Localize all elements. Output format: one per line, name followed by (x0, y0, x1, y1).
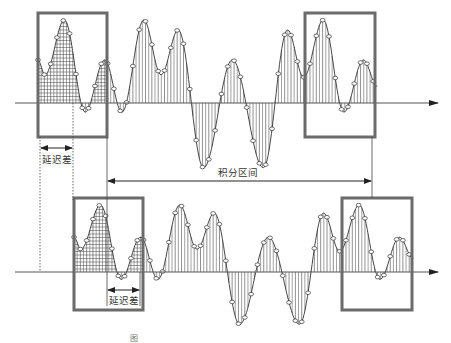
sample-marker (185, 223, 190, 227)
sample-marker (255, 263, 260, 267)
sample-marker (230, 300, 235, 304)
sample-marker (289, 33, 294, 37)
sample-marker (249, 292, 254, 296)
sample-marker (166, 240, 171, 244)
bottom-delay-label: 延迟差 (109, 295, 139, 306)
sample-marker (356, 203, 361, 207)
sample-marker (236, 322, 241, 326)
sample-marker (350, 216, 355, 220)
sample-marker (91, 217, 96, 221)
sample-marker (187, 87, 192, 91)
sample-marker (55, 36, 60, 40)
sample-marker (86, 106, 91, 110)
sample-marker (112, 87, 117, 91)
sample-marker (325, 215, 330, 219)
sample-marker (276, 72, 281, 76)
top-delay-label: 延迟差 (42, 154, 72, 165)
sample-marker (204, 226, 209, 230)
sample-marker (192, 244, 197, 248)
reference-signal (36, 18, 378, 169)
sample-marker (308, 62, 313, 66)
sample-marker (352, 82, 357, 86)
sample-marker (154, 277, 159, 281)
sample-marker (280, 274, 285, 278)
sample-marker (369, 250, 374, 254)
sample-marker (84, 239, 89, 243)
sample-marker (168, 46, 173, 50)
sample-marker (375, 275, 380, 279)
sample-marker (97, 204, 102, 208)
sample-marker (135, 239, 140, 243)
sample-marker (225, 65, 230, 69)
sample-marker (318, 215, 323, 219)
delay-correlation-diagram: 延迟差 延迟差 积分区间 图 (0, 0, 451, 343)
sample-marker (200, 165, 205, 169)
sample-marker (268, 236, 273, 240)
sample-marker (299, 320, 304, 324)
sample-marker (148, 259, 153, 263)
sample-marker (346, 105, 351, 109)
sample-marker (306, 291, 311, 295)
sample-marker (382, 273, 387, 277)
sample-marker (363, 216, 368, 220)
sample-marker (282, 33, 287, 37)
sample-marker (122, 274, 127, 278)
sample-marker (232, 59, 237, 63)
sample-marker (263, 163, 268, 167)
sample-marker (80, 106, 85, 110)
sample-marker (181, 42, 186, 46)
bottom-leading-window-box (74, 198, 143, 310)
waveform-curve (74, 205, 413, 324)
sample-marker (257, 162, 262, 166)
sample-marker (198, 244, 203, 248)
sample-marker (344, 238, 349, 242)
sample-marker (74, 72, 79, 76)
sample-marker (179, 204, 184, 208)
sample-marker (42, 73, 47, 77)
sample-marker (333, 76, 338, 80)
sample-marker (331, 237, 336, 241)
sample-marker (293, 319, 298, 323)
sample-marker (175, 29, 180, 33)
sample-marker (211, 212, 216, 216)
sample-marker (219, 92, 224, 96)
delayed-signal (72, 203, 414, 325)
sample-marker (93, 84, 98, 88)
sample-marker (394, 238, 399, 242)
sample-marker (242, 316, 247, 320)
sample-marker (61, 19, 66, 23)
sample-marker (388, 255, 393, 259)
sample-marker (320, 18, 325, 22)
sample-marker (48, 62, 53, 66)
sample-marker (162, 69, 167, 73)
sample-marker (312, 247, 317, 251)
sample-marker (156, 69, 161, 73)
sample-marker (124, 101, 129, 105)
top-trailing-window-box (305, 13, 375, 137)
sample-marker (261, 241, 266, 245)
sample-marker (217, 222, 222, 226)
sample-marker (223, 259, 228, 263)
sample-marker (130, 64, 135, 68)
sample-marker (327, 35, 332, 39)
sample-marker (78, 247, 83, 251)
sample-marker (365, 62, 370, 66)
sample-marker (116, 274, 121, 278)
sample-marker (244, 106, 249, 110)
sample-marker (339, 108, 344, 112)
sample-marker (173, 211, 178, 215)
sample-marker (287, 301, 292, 305)
sample-marker (67, 32, 72, 36)
sample-marker (401, 238, 406, 242)
sample-marker (149, 43, 154, 47)
sample-marker (137, 28, 142, 32)
figure-caption: 图 (130, 334, 138, 343)
sample-marker (118, 109, 123, 113)
sample-marker (129, 256, 134, 260)
sample-marker (194, 138, 199, 142)
integration-interval-label: 积分区间 (218, 167, 258, 178)
sample-marker (314, 34, 319, 38)
sample-marker (143, 20, 148, 24)
sample-marker (99, 62, 104, 66)
sample-marker (213, 129, 218, 133)
